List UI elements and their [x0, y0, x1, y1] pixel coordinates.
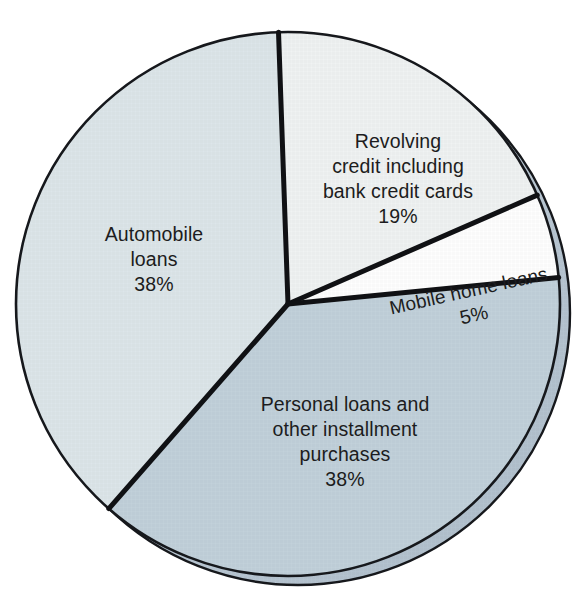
slice-label-line: purchases — [300, 443, 391, 465]
pie-chart-figure: Revolvingcredit includingbank credit car… — [0, 0, 572, 598]
slice-label-line: loans — [130, 248, 177, 270]
slice-value-automobile-loans: 38% — [134, 273, 173, 295]
slice-label-line: Revolving — [355, 130, 442, 152]
slice-label-line: Personal loans and — [261, 393, 430, 415]
slice-label-line: Automobile — [105, 223, 204, 245]
slice-value-revolving-credit: 19% — [378, 205, 417, 227]
pie-chart-svg: Revolvingcredit includingbank credit car… — [0, 0, 572, 598]
slice-label-line: bank credit cards — [323, 180, 473, 202]
slice-label-line: other installment — [273, 418, 418, 440]
slice-value-personal-loans: 38% — [325, 468, 364, 490]
slice-label-line: credit including — [332, 155, 464, 177]
